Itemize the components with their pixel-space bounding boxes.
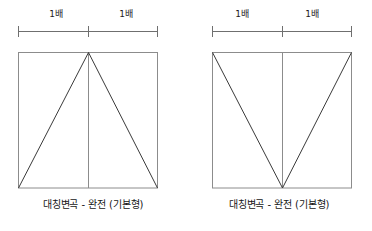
- diagram-panel-left: 1배 1배 대칭변곡 - 완전 (기본형): [0, 0, 186, 231]
- panel-caption-left: 대칭변곡 - 완전 (기본형): [0, 196, 186, 211]
- figure-canvas: 1배 1배 대칭변곡 - 완전 (기본형) 1배 1배: [0, 0, 372, 231]
- diagram-panel-right: 1배 1배 대칭변곡 - 완전 (기본형): [186, 0, 372, 231]
- panel-caption-right: 대칭변곡 - 완전 (기본형): [186, 196, 372, 211]
- scale-bar-right: [212, 26, 352, 37]
- scale-bar-left: [18, 26, 158, 37]
